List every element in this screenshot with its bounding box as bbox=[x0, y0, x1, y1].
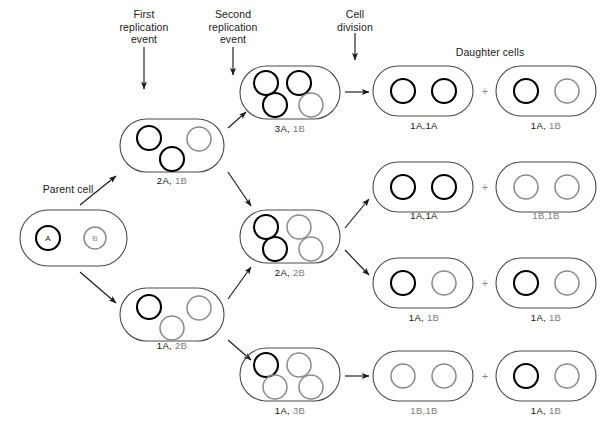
daughter-1A1B-row4-label-part-b: 1B bbox=[546, 405, 561, 416]
daughter-1A1B-row3b-label: 1A, 1B bbox=[531, 312, 561, 323]
daughter-1A1B-row1-label-part-b: 1B bbox=[546, 120, 561, 131]
cell-1A-3B-plasmid-b-1 bbox=[287, 353, 311, 377]
daughter-1B1B-row4-outline bbox=[373, 351, 473, 401]
daughter-1B1B-row2 bbox=[496, 162, 596, 212]
arrow-2A1B-to-3A1B bbox=[228, 112, 246, 128]
daughter-1A1B-row3b-plasmid-a-0 bbox=[514, 271, 538, 295]
daughter-1B1B-row2-plasmid-b-0 bbox=[514, 175, 538, 199]
daughter-1B1B-row4-label: 1B,1B bbox=[410, 405, 437, 416]
daughter-1A1B-row1-label-part-a: 1A, bbox=[531, 120, 546, 131]
daughter-1B1B-row4-plasmid-b-0 bbox=[391, 364, 415, 388]
diagram-canvas: AB Parent cellFirst replication eventSec… bbox=[0, 0, 609, 428]
daughter-1A1A-row1-outline bbox=[373, 66, 473, 116]
cell-2A-2B-plasmid-a-2 bbox=[263, 237, 287, 261]
cell-2A-2B-label: 2A, 2B bbox=[275, 267, 305, 278]
cell-2A-1B-plasmid-a-2 bbox=[160, 147, 184, 171]
daughter-1A1A-row2-outline bbox=[373, 162, 473, 212]
daughter-1A1B-row4 bbox=[496, 351, 596, 401]
cell-1A-3B bbox=[240, 348, 340, 401]
daughter-1A1B-row1-plasmid-a-0 bbox=[514, 79, 538, 103]
daughter-1A1B-row3b-plasmid-b-1 bbox=[555, 271, 579, 295]
cell-2A-2B-plasmid-b-1 bbox=[287, 215, 311, 239]
cell-1A-3B-label: 1A, 3B bbox=[275, 405, 305, 416]
parent-cell: AB bbox=[20, 210, 127, 266]
daughter-1A1B-row3-outline bbox=[373, 258, 473, 308]
plus-row4: + bbox=[482, 370, 488, 382]
diagram-vector-layer: AB bbox=[0, 0, 609, 428]
cell-3A-1B-plasmid-b-3 bbox=[299, 93, 323, 117]
cell-1A-2B-label-part-a: 1A, bbox=[157, 340, 172, 351]
daughter-1A1B-row1-outline bbox=[496, 66, 596, 116]
daughter-1A1B-row4-plasmid-b-1 bbox=[555, 364, 579, 388]
cell-3A-1B-label-part-b: 1B bbox=[290, 123, 305, 134]
cell-2A-2B bbox=[240, 210, 340, 263]
arrow-2A2B-to-row3 bbox=[345, 250, 369, 275]
daughter-1B1B-row2-label-part-b: 1B,1B bbox=[532, 210, 559, 221]
cell-2A-1B bbox=[120, 119, 224, 172]
daughter-1A1B-row3-label-part-a: 1A, bbox=[409, 312, 424, 323]
cell-1A-2B bbox=[120, 288, 224, 341]
daughter-1A1A-row2-plasmid-a-1 bbox=[432, 175, 456, 199]
cell-2A-1B-label-part-b: 1B bbox=[172, 175, 187, 186]
arrow-parent-to-1A2B bbox=[80, 272, 116, 303]
cell-1A-3B-label-part-a: 1A, bbox=[275, 405, 290, 416]
daughter-1B1B-row4 bbox=[373, 351, 473, 401]
arrow-1A2B-to-2A2B bbox=[228, 267, 251, 299]
daughter-1A1B-row1 bbox=[496, 66, 596, 116]
cell-1A-2B-plasmid-b-1 bbox=[187, 296, 211, 320]
cell-3A-1B-plasmid-a-1 bbox=[287, 71, 311, 95]
cell-1A-3B-outline bbox=[240, 348, 340, 401]
daughter-1A1A-row2 bbox=[373, 162, 473, 212]
daughter-1A1B-row4-outline bbox=[496, 351, 596, 401]
plus-row1: + bbox=[482, 85, 488, 97]
arrow-2A1B-to-2A2B bbox=[228, 172, 251, 206]
cell-1A-2B-label: 1A, 2B bbox=[157, 340, 187, 351]
plus-row2: + bbox=[482, 181, 488, 193]
daughter-1A1B-row4-label-part-a: 1A, bbox=[531, 405, 546, 416]
cell-3A-1B-plasmid-a-0 bbox=[254, 71, 278, 95]
parent-cell-caption: Parent cell bbox=[18, 183, 118, 196]
second-replication-event-label: Second replication event bbox=[178, 8, 288, 46]
daughter-1A1B-row1-plasmid-b-1 bbox=[555, 79, 579, 103]
daughter-1A1B-row3b-label-part-b: 1B bbox=[546, 312, 561, 323]
daughter-1A1B-row3b-label-part-a: 1A, bbox=[531, 312, 546, 323]
cell-2A-2B-plasmid-a-0 bbox=[254, 215, 278, 239]
daughter-1B1B-row2-outline bbox=[496, 162, 596, 212]
daughter-1A1B-row4-label: 1A, 1B bbox=[531, 405, 561, 416]
daughter-1B1B-row4-label-part-b: 1B,1B bbox=[410, 405, 437, 416]
daughter-1A1B-row3-plasmid-b-1 bbox=[432, 271, 456, 295]
cell-1A-3B-plasmid-b-3 bbox=[299, 375, 323, 399]
cell-1A-2B-plasmid-b-2 bbox=[160, 316, 184, 340]
daughter-cells-label: Daughter cells bbox=[435, 46, 545, 59]
cell-3A-1B-plasmid-a-2 bbox=[263, 93, 287, 117]
daughter-1A1A-row2-label-part-a: 1A,1A bbox=[410, 210, 437, 221]
cell-1A-2B-plasmid-a-0 bbox=[137, 295, 161, 319]
cell-2A-1B-plasmid-b-1 bbox=[187, 127, 211, 151]
daughter-1A1B-row3-label-part-b: 1B bbox=[424, 312, 439, 323]
cell-2A-2B-plasmid-b-3 bbox=[299, 237, 323, 261]
cell-3A-1B-label: 3A, 1B bbox=[275, 123, 305, 134]
daughter-1B1B-row2-plasmid-b-1 bbox=[555, 175, 579, 199]
daughter-1A1A-row1-plasmid-a-1 bbox=[432, 79, 456, 103]
cell-1A-3B-plasmid-a-0 bbox=[254, 353, 278, 377]
arrow-group bbox=[80, 33, 369, 376]
arrow-1A2B-to-1A3B bbox=[228, 340, 251, 360]
cell-1A-3B-plasmid-b-2 bbox=[263, 375, 287, 399]
daughter-1A1A-row2-label: 1A,1A bbox=[410, 210, 437, 221]
cell-2A-2B-label-part-b: 2B bbox=[290, 267, 305, 278]
daughter-1A1B-row3-label: 1A, 1B bbox=[409, 312, 439, 323]
cell-2A-1B-label-part-a: 2A, bbox=[157, 175, 172, 186]
cell-3A-1B bbox=[240, 66, 340, 119]
cell-2A-1B-plasmid-a-0 bbox=[137, 126, 161, 150]
cell-1A-2B-label-part-b: 2B bbox=[172, 340, 187, 351]
daughter-1A1B-row3b bbox=[496, 258, 596, 308]
plus-row3: + bbox=[482, 277, 488, 289]
daughter-1A1B-row3 bbox=[373, 258, 473, 308]
cell-2A-2B-outline bbox=[240, 210, 340, 263]
daughter-1A1B-row3-plasmid-a-0 bbox=[391, 271, 415, 295]
daughter-1A1A-row1 bbox=[373, 66, 473, 116]
daughter-1A1A-row1-label: 1A,1A bbox=[410, 120, 437, 131]
daughter-1B1B-row4-plasmid-b-1 bbox=[432, 364, 456, 388]
daughter-1A1B-row3b-outline bbox=[496, 258, 596, 308]
daughter-1A1A-row2-plasmid-a-0 bbox=[391, 175, 415, 199]
